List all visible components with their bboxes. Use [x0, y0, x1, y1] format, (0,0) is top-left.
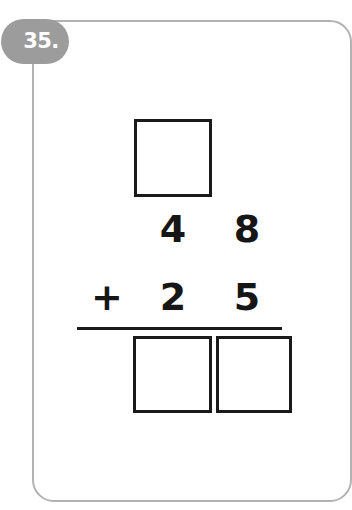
addend1-tens-digit: 4 — [153, 206, 193, 252]
plus-operator-icon: + — [87, 274, 127, 320]
addend-row-second: + 2 5 — [34, 274, 292, 320]
carry-box-tens[interactable] — [134, 119, 212, 197]
carry-row — [34, 99, 292, 187]
addend2-tens-digit: 2 — [153, 274, 193, 320]
addend-row-first: 4 8 — [34, 206, 292, 252]
problem-card: 35. 4 8 + 2 5 — [32, 20, 352, 502]
addend1-ones-digit: 8 — [227, 206, 267, 252]
problem-number-badge: 35. — [1, 19, 69, 64]
problem-number-label: 35. — [11, 31, 59, 52]
answer-box-ones[interactable] — [216, 336, 292, 413]
answer-row — [34, 336, 296, 414]
sum-line-divider — [77, 327, 282, 330]
vertical-addition-problem: 4 8 + 2 5 — [34, 22, 324, 504]
addend2-ones-digit: 5 — [227, 274, 267, 320]
answer-box-tens[interactable] — [133, 336, 212, 413]
